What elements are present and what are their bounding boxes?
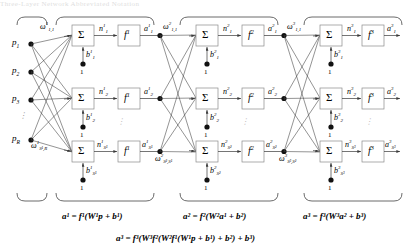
equation-layer3: a³ = f³(W³a² + b³)	[303, 212, 366, 221]
layer2-bias-1: b21	[210, 50, 219, 61]
input-label-p3: p3	[12, 94, 19, 105]
layer2-bias-3: b2S²	[210, 166, 220, 177]
equation-layer1: a¹ = f¹(W¹p + b¹)	[62, 212, 123, 221]
equation-full: a³ = f³(W³f²(W²f¹(W¹p + b¹) + b²) + b³)	[116, 234, 255, 243]
layer3-sum-1: Σ	[326, 29, 332, 40]
figure-canvas: Three-Layer Network Abbreviated Notation	[0, 0, 403, 251]
layer2-weight-last: ω2S²,S¹	[155, 154, 172, 165]
layer1-bias-source-1: 1	[80, 68, 84, 76]
layer1-to-layer2-links	[160, 35, 196, 152]
layer3-transfer-1: f3	[368, 29, 374, 40]
layer1-transfer-2: f1	[124, 92, 130, 103]
input-label-p2: p2	[12, 66, 19, 77]
layer2-bias-2: b22	[210, 113, 219, 124]
layer2-transfer-1: f2	[248, 29, 254, 40]
layer3-out-1: a31	[387, 24, 396, 35]
layer2-net-2: n22	[223, 87, 232, 98]
layer3-bias-3: b3S³	[334, 166, 344, 177]
layer2-bias-source-1: 1	[204, 68, 208, 76]
layer1-net-1: n11	[99, 24, 108, 35]
layer1-weight-first: ω11,1	[40, 22, 54, 33]
layer1-bias-2: b12	[86, 113, 95, 124]
layer2-bias-source-3: 1	[204, 184, 208, 192]
layer3-net-1: n31	[347, 24, 356, 35]
layer3-transfer-2: f3	[368, 92, 374, 103]
layer2-out-2: a22	[268, 87, 277, 98]
layer1-net-2: n12	[99, 87, 108, 98]
input-label-pR: pR	[12, 134, 20, 145]
layer2-bias-source-2: 1	[204, 131, 208, 139]
layer3-row-vdots: ⋮	[365, 118, 373, 126]
layer1-bias-1: b11	[86, 50, 95, 61]
layer1-out-3: a1S¹	[142, 140, 152, 151]
layer2-row-vdots: ⋮	[241, 118, 249, 126]
layer1-sum-2: Σ	[78, 92, 84, 103]
layer3-bias-source-1: 1	[328, 68, 332, 76]
layer3-out-2: a32	[387, 87, 396, 98]
layer2-output-junctions	[281, 33, 286, 154]
input-to-layer1-links	[31, 35, 72, 152]
layer2-out-3: a2S²	[266, 140, 276, 151]
layer2-transfer-2: f2	[248, 92, 254, 103]
layer3-bias-1: b31	[334, 50, 343, 61]
layer3-transfer-3: f3	[368, 145, 374, 156]
layer2-transfer-3: f2	[248, 145, 254, 156]
layer3-weight-first: ω31,1	[287, 22, 301, 33]
layer1-bias-3: b1S¹	[86, 166, 96, 177]
input-label-p1: p1	[12, 38, 19, 49]
layer3-bias-2: b32	[334, 113, 343, 124]
layer2-sum-3: Σ	[202, 145, 208, 156]
layer2-sum-1: Σ	[202, 29, 208, 40]
input-nodes	[28, 41, 33, 142]
layer3-net-2: n32	[347, 87, 356, 98]
layer1-output-junctions	[157, 33, 162, 154]
layer2-to-layer3-links	[284, 35, 320, 152]
layer1-net-3: n1S¹	[97, 140, 107, 151]
layer1-weight-last: ω1S¹,R	[31, 141, 47, 152]
layer1-transfer-1: f1	[124, 29, 130, 40]
layer2-sum-2: Σ	[202, 92, 208, 103]
layer1-out-1: a11	[144, 24, 153, 35]
layer3-weight-last: ω3S³,S²	[279, 154, 296, 165]
layer3-out-3: a3S³	[385, 140, 395, 151]
layer1-bias-source-2: 1	[80, 131, 84, 139]
layer1-out-2: a12	[144, 87, 153, 98]
layer2-net-1: n21	[223, 24, 232, 35]
input-vdots: ⋮	[19, 112, 27, 120]
layer1-row-vdots: ⋮	[117, 118, 125, 126]
layer3-sum-2: Σ	[326, 92, 332, 103]
layer1-sum-3: Σ	[78, 145, 84, 156]
layer3-sum-3: Σ	[326, 145, 332, 156]
layer3-net-3: n3S³	[345, 140, 355, 151]
layer3-bias-source-3: 1	[328, 184, 332, 192]
layer3-bias-source-2: 1	[328, 131, 332, 139]
layer2-weight-first: ω21,1	[163, 22, 177, 33]
layer2-net-3: n2S²	[221, 140, 231, 151]
layer1-bias-source-3: 1	[80, 184, 84, 192]
layer1-transfer-3: f1	[124, 145, 130, 156]
layer2-out-1: a21	[268, 24, 277, 35]
equation-layer2: a² = f²(W²a¹ + b²)	[183, 212, 246, 221]
layer1-sum-1: Σ	[78, 29, 84, 40]
